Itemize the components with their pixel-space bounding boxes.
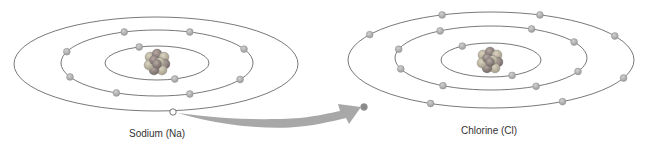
- chlorine-shell-3-electron: [559, 98, 566, 105]
- sodium-vacated-electron-position: [170, 109, 176, 115]
- sodium-shell-2-electron: [113, 90, 120, 97]
- chlorine-shell-2-electron: [571, 39, 578, 46]
- sodium-shell-2-electron: [186, 29, 193, 36]
- chlorine-shell-3-electron: [366, 31, 373, 38]
- sodium-nucleus: [144, 49, 170, 75]
- transferred-electron: [361, 104, 368, 111]
- chlorine-label: Chlorine (Cl): [461, 125, 517, 136]
- chlorine-shell-2-electron: [528, 26, 535, 33]
- chlorine-shell-3-electron: [620, 75, 627, 82]
- sodium-shell-1-electron: [171, 76, 178, 83]
- chlorine-shell-3-electron: [537, 12, 544, 19]
- chlorine-shell-1-electron: [459, 43, 466, 50]
- chlorine-nucleus: [477, 47, 503, 73]
- chlorine-shell-2-electron: [397, 66, 404, 73]
- chlorine-shell-3-electron: [611, 33, 618, 40]
- chlorine-shell-2-electron: [395, 46, 402, 53]
- chlorine-shell-2-electron: [440, 82, 447, 89]
- sodium-shell-2-electron: [63, 48, 70, 55]
- sodium-shell-1-electron: [136, 44, 143, 51]
- electron-transfer-arrow: [178, 104, 361, 128]
- chlorine-shell-2-electron: [437, 28, 444, 35]
- sodium-shell-2-electron: [67, 74, 74, 81]
- ionic-bond-diagram: Sodium (Na) Chlorine (Cl): [0, 0, 648, 148]
- sodium-shell-2-electron: [237, 76, 244, 83]
- chlorine-shell-2-electron: [533, 83, 540, 90]
- sodium-shell-2-electron: [241, 46, 248, 53]
- chlorine-atom: Chlorine (Cl): [348, 12, 634, 137]
- proton: [485, 57, 494, 66]
- sodium-shell-2-electron: [186, 91, 193, 98]
- chlorine-shell-1-electron: [509, 72, 516, 79]
- chlorine-shell-2-electron: [575, 68, 582, 75]
- chlorine-shell-3-electron: [439, 12, 446, 19]
- sodium-shell-2-electron: [121, 29, 128, 36]
- proton: [152, 59, 161, 68]
- chlorine-shell-3-electron: [427, 100, 434, 107]
- sodium-label: Sodium (Na): [129, 128, 185, 139]
